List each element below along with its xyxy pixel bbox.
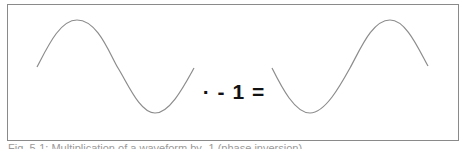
figure-caption: Fig. 5-1: Multiplication of a waveform b…: [8, 142, 302, 149]
inverted-sine-wave: [272, 20, 428, 113]
original-sine-wave: [37, 20, 194, 113]
multiply-by-minus-one-equation: · - 1 =: [199, 80, 269, 104]
waveform-diagram: [0, 0, 466, 149]
